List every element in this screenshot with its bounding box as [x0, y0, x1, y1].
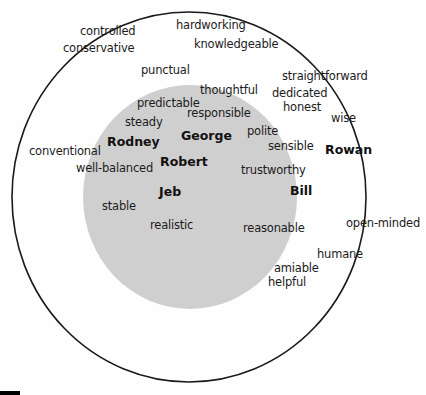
- trait-word-straightforward: straightforward: [282, 70, 368, 83]
- person-name-rodney: Rodney: [107, 135, 160, 149]
- trait-word-wise: wise: [331, 112, 356, 125]
- diagram-canvas: controlledconservativehardworkingknowled…: [0, 0, 426, 395]
- trait-word-stable: stable: [102, 200, 136, 213]
- trait-word-thoughtful: thoughtful: [200, 84, 258, 97]
- trait-word-conservative: conservative: [63, 42, 134, 55]
- person-name-rowan: Rowan: [325, 143, 372, 157]
- trait-word-trustworthy: trustworthy: [241, 164, 306, 177]
- trait-word-honest: honest: [283, 101, 321, 114]
- trait-word-sensible: sensible: [268, 140, 314, 153]
- person-name-george: George: [181, 129, 232, 143]
- person-name-jeb: Jeb: [159, 185, 181, 199]
- trait-word-conventional: conventional: [29, 145, 101, 158]
- trait-word-realistic: realistic: [150, 219, 193, 232]
- trait-word-amiable: amiable: [274, 262, 319, 275]
- trait-word-humane: humane: [317, 248, 363, 261]
- trait-word-helpful: helpful: [268, 276, 306, 289]
- trait-word-polite: polite: [247, 125, 278, 138]
- trait-word-controlled: controlled: [80, 25, 135, 38]
- person-name-bill: Bill: [290, 184, 312, 198]
- trait-word-hardworking: hardworking: [176, 19, 246, 32]
- trait-word-punctual: punctual: [141, 64, 190, 77]
- trait-word-responsible: responsible: [187, 107, 251, 120]
- trait-word-knowledgeable: knowledgeable: [194, 38, 278, 51]
- trait-word-reasonable: reasonable: [243, 222, 305, 235]
- trait-word-well-balanced: well-balanced: [76, 162, 153, 175]
- circles-layer: [0, 0, 426, 395]
- trait-word-steady: steady: [125, 116, 163, 129]
- person-name-robert: Robert: [160, 155, 208, 169]
- trait-word-open-minded: open-minded: [346, 217, 420, 230]
- trait-word-dedicated: dedicated: [272, 87, 327, 100]
- corner-mark: [0, 391, 20, 395]
